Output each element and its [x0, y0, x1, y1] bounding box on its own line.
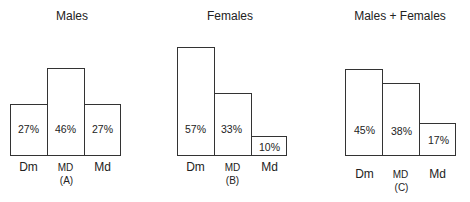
chart-title: Males + Females — [345, 9, 455, 23]
bar-md-upper — [47, 68, 85, 156]
bar-value: 27% — [84, 123, 121, 135]
bar-value: 27% — [10, 123, 47, 135]
category-label: Md — [84, 160, 121, 174]
category-label: Md — [419, 167, 456, 181]
panel-label: (A) — [48, 175, 85, 186]
bar-dm — [177, 47, 215, 156]
bar-value: 33% — [213, 123, 250, 135]
category-label: Md — [251, 160, 288, 174]
chart-title: Males — [42, 9, 102, 23]
bar-value: 46% — [47, 123, 84, 135]
category-label: Dm — [346, 167, 383, 181]
bar-value: 10% — [251, 141, 288, 153]
chart-title: Females — [200, 9, 260, 23]
category-label: Dm — [10, 160, 47, 174]
bar-value: 38% — [383, 125, 420, 137]
bar-value: 17% — [420, 134, 457, 146]
category-label: MD — [214, 162, 251, 173]
panel-label: (C) — [383, 182, 420, 193]
bar-md-upper — [382, 83, 420, 156]
bar-dm — [345, 69, 383, 156]
category-label: MD — [382, 169, 419, 180]
category-label: MD — [47, 162, 84, 173]
panel-label: (B) — [214, 175, 251, 186]
bar-value: 45% — [346, 124, 383, 136]
bar-value: 57% — [177, 123, 214, 135]
category-label: Dm — [177, 160, 214, 174]
